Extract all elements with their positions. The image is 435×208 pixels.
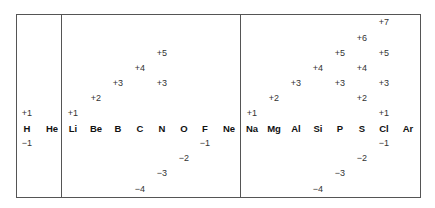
Be-ox-plus2: +2 <box>91 93 101 103</box>
element-He: He <box>46 123 58 134</box>
element-Be: Be <box>90 123 102 134</box>
S-ox-plus2: +2 <box>357 93 367 103</box>
element-C: C <box>137 123 144 134</box>
B-ox-plus3: +3 <box>113 78 123 88</box>
element-F: F <box>202 123 208 134</box>
Na-ox-plus1: +1 <box>247 108 257 118</box>
element-Si: Si <box>314 123 323 134</box>
Al-ox-plus3: +3 <box>291 78 301 88</box>
N-ox-minus3: −3 <box>157 168 167 178</box>
period-2-3-divider <box>240 14 241 198</box>
element-Cl: Cl <box>379 123 389 134</box>
C-ox-minus4: −4 <box>135 184 145 194</box>
N-ox-plus5: +5 <box>157 48 167 58</box>
element-Na: Na <box>246 123 258 134</box>
P-ox-plus5: +5 <box>335 48 345 58</box>
F-ox-minus1: −1 <box>200 138 210 148</box>
S-ox-plus4: +4 <box>357 63 367 73</box>
Mg-ox-plus2: +2 <box>269 93 279 103</box>
P-ox-minus3: −3 <box>335 168 345 178</box>
H-ox-plus1: +1 <box>22 108 32 118</box>
S-ox-plus6: +6 <box>357 33 367 43</box>
Si-ox-minus4: −4 <box>313 184 323 194</box>
C-ox-plus4: +4 <box>135 63 145 73</box>
H-ox-minus1: −1 <box>22 138 32 148</box>
element-Ne: Ne <box>223 123 235 134</box>
element-O: O <box>180 123 187 134</box>
element-Mg: Mg <box>267 123 281 134</box>
Cl-ox-plus3: +3 <box>379 78 389 88</box>
Si-ox-plus4: +4 <box>313 63 323 73</box>
element-B: B <box>115 123 122 134</box>
element-Li: Li <box>69 123 77 134</box>
Cl-ox-minus1: −1 <box>379 138 389 148</box>
Li-ox-plus1: +1 <box>68 108 78 118</box>
element-Al: Al <box>291 123 301 134</box>
Cl-ox-plus5: +5 <box>379 48 389 58</box>
S-ox-minus2: −2 <box>357 153 367 163</box>
element-P: P <box>337 123 343 134</box>
Cl-ox-plus1: +1 <box>379 108 389 118</box>
element-H: H <box>24 123 31 134</box>
element-N: N <box>159 123 166 134</box>
period-1-divider <box>61 14 62 198</box>
N-ox-plus3: +3 <box>157 78 167 88</box>
element-S: S <box>359 123 365 134</box>
element-Ar: Ar <box>403 123 414 134</box>
O-ox-minus2: −2 <box>179 153 189 163</box>
P-ox-plus3: +3 <box>335 78 345 88</box>
Cl-ox-plus7: +7 <box>379 17 389 27</box>
